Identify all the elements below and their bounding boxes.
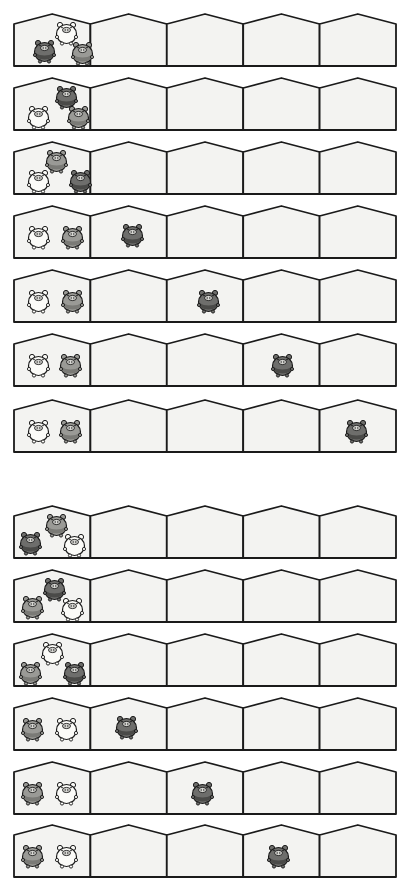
house-row (14, 268, 396, 324)
house (320, 698, 396, 750)
house (243, 762, 319, 814)
house-row (14, 398, 396, 454)
house (320, 570, 396, 622)
house-row (14, 76, 396, 132)
pig-icon-medium (18, 660, 42, 684)
pig-icon-white (62, 532, 86, 556)
house (243, 400, 319, 452)
house (167, 634, 243, 686)
house (167, 825, 243, 877)
house (167, 506, 243, 558)
pig-icon-white (26, 104, 50, 128)
pig-icon-medium (70, 40, 94, 64)
pig-icon-dark (120, 222, 144, 246)
house (90, 506, 166, 558)
pig-icon-white (54, 716, 78, 740)
house (167, 400, 243, 452)
pig-icon-medium (20, 594, 44, 618)
house (90, 762, 166, 814)
pig-icon-dark (32, 38, 56, 62)
house (90, 400, 166, 452)
house (90, 14, 166, 66)
house (167, 14, 243, 66)
house (243, 570, 319, 622)
house (90, 825, 166, 877)
house (243, 206, 319, 258)
house (243, 698, 319, 750)
house (320, 206, 396, 258)
house (320, 506, 396, 558)
pig-icon-white (26, 288, 50, 312)
pig-icon-dark (62, 660, 86, 684)
house (90, 334, 166, 386)
pig-icon-dark (344, 418, 368, 442)
house-row (14, 760, 396, 816)
house-row (14, 12, 396, 68)
pig-icon-white (26, 418, 50, 442)
house (167, 698, 243, 750)
house (243, 14, 319, 66)
house (243, 634, 319, 686)
house-row (14, 632, 396, 688)
house-row (14, 568, 396, 624)
pig-icon-medium (58, 352, 82, 376)
house (320, 762, 396, 814)
house (90, 142, 166, 194)
pig-icon-medium (20, 716, 44, 740)
pig-icon-white (26, 352, 50, 376)
pig-icon-white (54, 780, 78, 804)
house (243, 78, 319, 130)
house (243, 142, 319, 194)
pig-icon-white (60, 596, 84, 620)
pig-icon-medium (58, 418, 82, 442)
house (320, 270, 396, 322)
house (320, 825, 396, 877)
house (167, 142, 243, 194)
pig-icon-white (54, 843, 78, 867)
house-row (14, 140, 396, 196)
house (167, 206, 243, 258)
pig-icon-dark (196, 288, 220, 312)
pig-icon-medium (20, 843, 44, 867)
house (90, 78, 166, 130)
house (90, 634, 166, 686)
pig-icon-medium (66, 104, 90, 128)
house (320, 334, 396, 386)
house (90, 270, 166, 322)
house (243, 270, 319, 322)
pig-icon-dark (18, 530, 42, 554)
house (320, 142, 396, 194)
pig-icon-white (26, 168, 50, 192)
house (320, 14, 396, 66)
pig-icon-dark (114, 714, 138, 738)
house (90, 570, 166, 622)
pig-icon-medium (20, 780, 44, 804)
house-row (14, 504, 396, 560)
pig-icon-dark (68, 168, 92, 192)
house-row (14, 823, 396, 879)
house (243, 506, 319, 558)
house-row (14, 204, 396, 260)
pig-icon-medium (60, 224, 84, 248)
house (167, 78, 243, 130)
house (320, 634, 396, 686)
pig-icon-white (26, 224, 50, 248)
house-row (14, 332, 396, 388)
house (167, 570, 243, 622)
pig-icon-dark (270, 352, 294, 376)
house (320, 78, 396, 130)
house-row (14, 696, 396, 752)
pig-icon-dark (266, 843, 290, 867)
pig-icon-medium (60, 288, 84, 312)
pig-icon-dark (190, 780, 214, 804)
house (167, 334, 243, 386)
